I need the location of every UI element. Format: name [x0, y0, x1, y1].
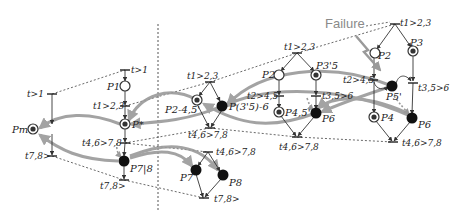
place-pstar: [120, 119, 130, 129]
failure-label: Failure: [325, 16, 365, 31]
place-label: P7: [179, 172, 194, 183]
transition-label: t4,6>7,8: [188, 130, 228, 140]
place-label: P2-4,5': [164, 104, 200, 115]
place-label: P4: [380, 112, 394, 123]
place-label: P4,5': [284, 107, 310, 118]
place-p5-right: [387, 81, 398, 92]
transition-label: t7,8>: [214, 194, 239, 204]
transition-label: t>1: [27, 89, 44, 99]
transition-label: t4,6>7,8: [402, 138, 442, 148]
place-label: P1: [106, 81, 120, 92]
failure-dashed-link: [366, 22, 390, 26]
place-label: Pm: [11, 124, 28, 135]
transition-label: t1>2,3: [400, 18, 431, 28]
place-label: P8: [228, 177, 242, 188]
transition-label: t4,6>7,8: [82, 138, 122, 148]
place-label: P7|8: [129, 163, 153, 175]
place-p8: [218, 170, 229, 181]
place-p45: [274, 107, 284, 117]
transition-label: t>1: [131, 65, 148, 75]
place-p35-6: [217, 101, 228, 112]
place-p4-right: [369, 112, 379, 122]
place-p1: [120, 81, 130, 91]
place-pm: [28, 124, 38, 134]
place-label: P3'5: [315, 60, 338, 71]
place-label: P2: [261, 69, 275, 80]
place-label: P6: [417, 119, 432, 130]
transition-label: t7,8>: [25, 151, 50, 161]
place-p6-right: [407, 113, 418, 124]
place-label: P6: [321, 113, 336, 124]
place-label: P*: [131, 119, 144, 130]
place-label: P5': [385, 91, 402, 102]
transition-label: t1>2,3: [93, 101, 124, 111]
transition-label: t4,6>7,8: [216, 147, 256, 157]
place-p78: [119, 156, 130, 167]
place-p6-mid: [311, 108, 322, 119]
transition-label: t3,5>6: [322, 91, 353, 101]
transition-label: t4,6>7,8: [279, 142, 319, 152]
place-label: P(3'5)-6: [228, 101, 269, 112]
place-label: P3: [409, 37, 423, 48]
place-p35: [311, 70, 321, 80]
transition-label: t1>2,3: [284, 42, 315, 52]
place-p2-mid: [274, 70, 284, 80]
transition-label: t7,8>: [100, 181, 125, 191]
petri-net-diagram: Failure t>1 t>1 t1>2,3 t4,6>7,8 t7,8> t7…: [0, 0, 467, 216]
transition-label: t2>4,5: [247, 91, 278, 101]
transition-label: t3,5>6: [418, 83, 449, 93]
transition-label: t1>2,3: [187, 71, 218, 81]
place-label: P2: [377, 50, 391, 61]
transition-label: t2>4,5: [343, 75, 374, 85]
